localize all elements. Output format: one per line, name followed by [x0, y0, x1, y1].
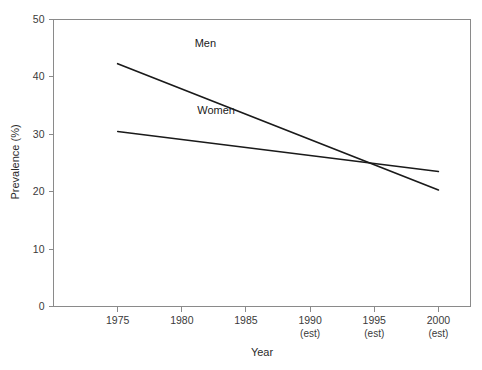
y-tick-label-20: 20	[33, 185, 45, 197]
y-tick-label-50: 50	[33, 13, 45, 25]
x-tick-label-1995: 1995	[363, 314, 387, 326]
series-line-women	[118, 131, 439, 171]
series-labels-group: MenWomen	[195, 37, 235, 116]
y-tick-label-0: 0	[39, 300, 45, 312]
x-tick-sublabel-1995: (est)	[364, 328, 384, 339]
plot-frame	[54, 20, 471, 307]
data-series-group	[118, 64, 439, 190]
y-tick-label-10: 10	[33, 243, 45, 255]
y-tick-label-30: 30	[33, 128, 45, 140]
x-tick-label-1990: 1990	[298, 314, 322, 326]
x-axis-title: Year	[251, 346, 274, 358]
series-line-men	[118, 64, 439, 190]
x-axis-ticks: 1975198019851990(est)1995(est)2000(est)	[106, 307, 450, 339]
plot-border	[54, 20, 471, 307]
chart-container: 1975198019851990(est)1995(est)2000(est) …	[0, 0, 482, 370]
x-tick-label-1985: 1985	[234, 314, 258, 326]
y-tick-label-40: 40	[33, 70, 45, 82]
x-tick-label-1980: 1980	[170, 314, 194, 326]
x-tick-sublabel-1990: (est)	[300, 328, 320, 339]
y-axis-title: Prevalence (%)	[9, 124, 21, 199]
series-label-men: Men	[195, 37, 216, 49]
series-label-women: Women	[197, 104, 235, 116]
x-tick-sublabel-2000: (est)	[428, 328, 448, 339]
x-tick-label-2000: 2000	[427, 314, 451, 326]
y-axis-ticks: 01020304050	[33, 13, 54, 312]
line-chart: 1975198019851990(est)1995(est)2000(est) …	[0, 0, 482, 370]
x-tick-label-1975: 1975	[106, 314, 130, 326]
